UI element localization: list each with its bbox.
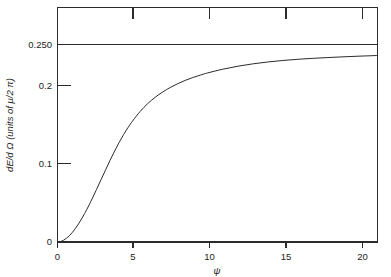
y-tick-label-0250: 0.250 [28, 39, 52, 50]
plot-frame [58, 8, 378, 243]
y-tick-label-0: 0 [47, 236, 52, 247]
y-axis-title: dE/d Ω (units of μ/2 π) [4, 78, 15, 172]
figure-screenshot: 0.250 0.2 0.1 0 0 5 10 15 20 ψ dE/d Ω (u… [0, 0, 391, 277]
x-axis-title: ψ [214, 265, 221, 276]
data-curve [58, 56, 378, 243]
y-tick-label-02: 0.2 [39, 80, 52, 91]
x-tick-label-15: 15 [281, 251, 292, 262]
x-tick-marks-top [133, 8, 363, 19]
plot-figure: 0.250 0.2 0.1 0 0 5 10 15 20 ψ dE/d Ω (u… [0, 0, 391, 277]
x-tick-label-20: 20 [357, 251, 368, 262]
x-tick-label-0: 0 [55, 251, 60, 262]
y-tick-label-01: 0.1 [39, 158, 52, 169]
x-tick-label-5: 5 [130, 251, 135, 262]
x-tick-marks-bottom [58, 242, 363, 248]
x-tick-label-10: 10 [204, 251, 215, 262]
y-tick-marks [58, 44, 71, 242]
